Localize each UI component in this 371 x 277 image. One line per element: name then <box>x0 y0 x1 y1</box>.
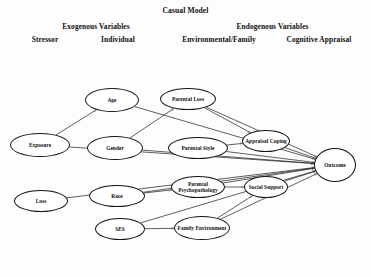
node-label: Gender <box>106 145 124 151</box>
node-label: Loss <box>36 198 47 204</box>
causal-model-diagram: Casual Model Exogenous Variables Endogen… <box>0 0 371 277</box>
edge-group <box>56 107 317 229</box>
edge-parental_style-to-appraisal_coping <box>227 143 243 145</box>
node-label: Social Support <box>249 184 284 190</box>
node-label: Family Environment <box>178 225 227 231</box>
node-label: Age <box>107 97 116 103</box>
node-family_environment: Family Environment <box>174 216 230 240</box>
node-label: Race <box>111 193 123 199</box>
node-label: Parental Psychopathology <box>174 181 222 193</box>
node-exposure: Exposure <box>10 133 70 157</box>
node-label: Appraisal Coping <box>245 138 287 144</box>
node-label: Parental Loss <box>172 96 204 102</box>
edge-exposure-to-age <box>56 110 96 135</box>
edge-ses-to-outcome <box>141 171 316 223</box>
node-age: Age <box>85 88 139 112</box>
node-gender: Gender <box>87 136 143 160</box>
node-appraisal_coping: Appraisal Coping <box>242 130 290 152</box>
node-label: Outcome <box>324 162 345 168</box>
node-parental_style: Parental Style <box>168 137 228 159</box>
node-ses: SES <box>95 218 145 240</box>
edge-gender-to-parental_loss <box>130 108 174 137</box>
node-label: Parental Style <box>181 145 214 151</box>
node-outcome: Outcome <box>314 148 356 182</box>
node-parental_psychopathology: Parental Psychopathology <box>171 176 225 198</box>
node-parental_loss: Parental Loss <box>160 88 216 110</box>
node-label: Exposure <box>29 142 51 148</box>
node-social_support: Social Support <box>244 176 288 198</box>
node-loss: Loss <box>14 190 68 212</box>
node-race: Race <box>89 185 145 207</box>
node-label: SES <box>115 226 125 232</box>
